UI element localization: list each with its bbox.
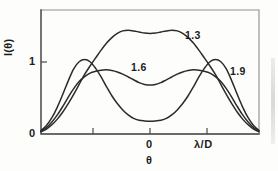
y-tick-label-1: 1 [29, 56, 35, 67]
plot-canvas [0, 0, 278, 171]
curve-annotation-1-6: 1.6 [131, 62, 147, 73]
curves-group [41, 30, 259, 132]
plot-frame [41, 10, 259, 134]
x-tick-label-lambda-d: λ/D [194, 139, 213, 150]
curve-1-3 [41, 30, 259, 132]
x-axis-ticks [93, 128, 207, 134]
curve-annotation-1-3: 1.3 [185, 30, 201, 41]
frame-top-right [41, 10, 259, 134]
x-axis-label: θ [146, 155, 152, 166]
curve-annotation-1-9: 1.9 [230, 66, 246, 77]
y-tick-label-0: 0 [29, 128, 35, 139]
x-tick-label-0: 0 [146, 139, 152, 150]
figure-container: I(θ) 1 0 0 λ/D θ 1.3 1.6 1.9 [0, 0, 278, 171]
y-axis-label: I(θ) [3, 38, 14, 56]
plot-axes [41, 10, 259, 134]
scan-edge-artifact [271, 58, 275, 144]
axis-left-bottom [41, 10, 259, 134]
